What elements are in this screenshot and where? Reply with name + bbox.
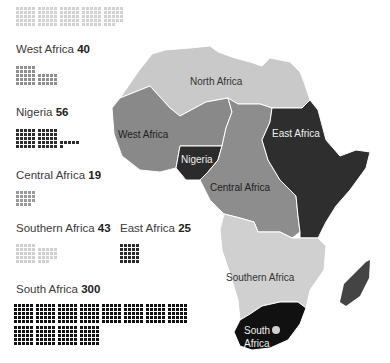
pictogram-block — [146, 304, 165, 323]
pictogram-north-africa — [16, 7, 206, 29]
pictogram-block — [16, 244, 35, 263]
pictogram-block — [80, 304, 99, 323]
map-label-south-africa-1: South — [244, 325, 270, 336]
group-label: Central Africa 19 — [16, 169, 101, 181]
group-name: Central Africa — [16, 169, 88, 181]
group-name: Southern Africa — [16, 222, 98, 234]
group-label: Nigeria 56 — [16, 106, 68, 118]
pictogram-central-africa — [16, 191, 126, 209]
pictogram-block — [60, 129, 79, 148]
group-value: 300 — [81, 283, 100, 295]
pictogram-block — [38, 7, 57, 26]
pictogram-east-africa — [120, 244, 230, 266]
group-name: Nigeria — [16, 106, 56, 118]
pictogram-block — [80, 326, 99, 345]
pictogram-block — [38, 66, 57, 85]
africa-pictogram-map: North Africa West Africa Nigeria East Af… — [0, 0, 390, 363]
map-label-north-africa: North Africa — [190, 76, 243, 87]
pictogram-block — [168, 304, 187, 323]
pictogram-block — [60, 7, 79, 26]
group-label: Southern Africa 43 — [16, 222, 111, 234]
lesotho-enclave — [272, 326, 280, 334]
pictogram-block — [102, 304, 121, 323]
pictogram-block — [16, 129, 35, 148]
map-label-south-africa-2: Africa — [244, 338, 270, 349]
pictogram-block — [36, 326, 55, 345]
region-madagascar — [340, 260, 370, 306]
group-label: East Africa 25 — [120, 222, 191, 234]
map-label-east-africa: East Africa — [272, 128, 320, 139]
group-name: East Africa — [120, 222, 178, 234]
group-value: 40 — [77, 43, 90, 55]
pictogram-block — [14, 304, 33, 323]
pictogram-west-africa — [16, 66, 126, 88]
pictogram-block — [38, 244, 57, 263]
group-label: West Africa 40 — [16, 43, 90, 55]
pictogram-block — [124, 304, 143, 323]
map-label-southern-africa: Southern Africa — [226, 272, 295, 283]
pictogram-block — [58, 326, 77, 345]
pictogram-block — [16, 191, 35, 206]
pictogram-block — [82, 7, 101, 26]
pictogram-block — [104, 7, 123, 26]
pictogram-nigeria — [16, 129, 126, 151]
pictogram-block — [16, 7, 35, 26]
pictogram-block — [16, 66, 35, 85]
pictogram-south-africa — [14, 304, 204, 348]
pictogram-block — [58, 304, 77, 323]
pictogram-block — [38, 129, 57, 148]
group-value: 25 — [178, 222, 191, 234]
pictogram-block — [14, 326, 33, 345]
map-label-central-africa: Central Africa — [210, 182, 270, 193]
group-value: 19 — [88, 169, 101, 181]
group-value: 56 — [56, 106, 69, 118]
group-value: 43 — [98, 222, 111, 234]
pictogram-southern-africa — [16, 244, 126, 266]
group-label: South Africa 300 — [16, 283, 100, 295]
group-name: South Africa — [16, 283, 81, 295]
pictogram-block — [120, 244, 139, 263]
map-label-nigeria: Nigeria — [181, 154, 213, 165]
pictogram-block — [36, 304, 55, 323]
group-name: West Africa — [16, 43, 77, 55]
